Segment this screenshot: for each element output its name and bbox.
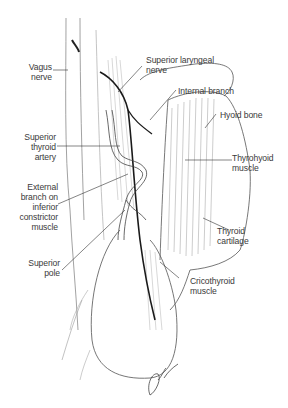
label-hyoid-bone: Hyoid bone [220, 110, 262, 120]
label-vagus-nerve: Vagus nerve [18, 62, 52, 82]
vagus-nerve-drawing [66, 18, 84, 330]
artist-signature [149, 364, 178, 395]
label-superior-thyroid-artery: Superior thyroid artery [6, 132, 56, 162]
label-superior-pole: Superior pole [10, 258, 60, 278]
label-thyrohyoid-muscle: Thyrohyoid muscle [232, 153, 274, 173]
label-internal-branch: Internal branch [178, 86, 234, 96]
anatomy-figure: Vagus nerve Superior laryngeal nerve Int… [0, 0, 288, 408]
thyrohyoid-muscle-hatching [168, 98, 214, 256]
label-superior-laryngeal-nerve: Superior laryngeal nerve [146, 55, 214, 75]
leader-lines [53, 66, 232, 278]
label-thyroid-cartilage: Thyroid cartilage [217, 226, 249, 246]
larynx-drawing [140, 63, 250, 310]
label-external-branch: External branch on inferior constrictor … [4, 182, 58, 232]
label-cricothyroid-muscle: Cricothyroid muscle [190, 276, 235, 296]
